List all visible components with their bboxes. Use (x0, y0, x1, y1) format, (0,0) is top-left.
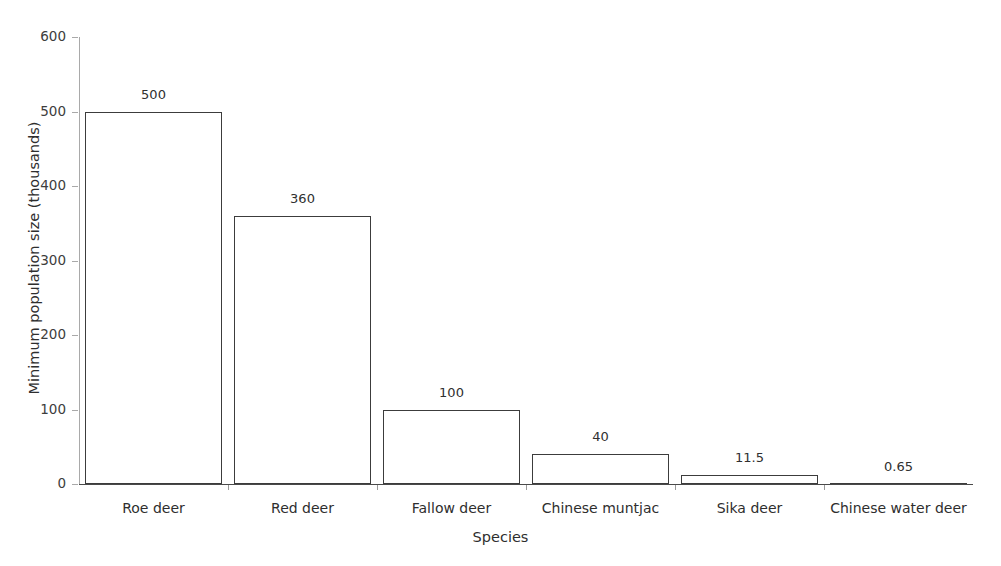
x-axis-category-label: Fallow deer (412, 500, 491, 516)
bar-value-label: 40 (592, 429, 609, 444)
x-axis-tick (526, 485, 527, 490)
bar[interactable] (681, 475, 817, 484)
x-axis-category-label: Red deer (271, 500, 334, 516)
bar[interactable] (532, 454, 668, 484)
bar[interactable] (383, 410, 519, 485)
bar-value-label: 100 (439, 385, 464, 400)
bar[interactable] (85, 112, 221, 485)
bar-value-label: 0.65 (884, 459, 913, 474)
y-axis-tick-label: 200 (24, 326, 66, 342)
y-axis-tick (72, 186, 78, 187)
x-axis-category-label: Chinese muntjac (542, 500, 659, 516)
y-axis-tick-label: 600 (24, 28, 66, 44)
x-axis-tick (377, 485, 378, 490)
y-axis-tick (72, 484, 78, 485)
x-axis-category-label: Chinese water deer (830, 500, 967, 516)
y-axis-tick-label: 500 (24, 103, 66, 119)
bar-value-label: 11.5 (735, 450, 764, 465)
x-axis-tick (675, 485, 676, 490)
x-axis-title: Species (0, 529, 1001, 545)
y-axis-tick-label: 300 (24, 252, 66, 268)
y-axis-tick-label: 100 (24, 401, 66, 417)
y-axis-tick (72, 37, 78, 38)
bar[interactable] (234, 216, 370, 484)
x-axis-category-label: Roe deer (122, 500, 185, 516)
bar-chart-figure: Minimum population size (thousands) 0100… (0, 0, 1001, 566)
y-axis-tick (72, 261, 78, 262)
x-axis-category-label: Sika deer (717, 500, 783, 516)
bar-value-label: 360 (290, 191, 315, 206)
x-axis-tick (824, 485, 825, 490)
y-axis-tick (72, 112, 78, 113)
y-axis-tick-label: 400 (24, 177, 66, 193)
x-axis-tick (228, 485, 229, 490)
bar[interactable] (830, 483, 966, 484)
y-axis-tick (72, 410, 78, 411)
plot-area (79, 37, 973, 484)
bar-value-label: 500 (141, 87, 166, 102)
y-axis-tick (72, 335, 78, 336)
y-axis-tick-label: 0 (24, 475, 66, 491)
